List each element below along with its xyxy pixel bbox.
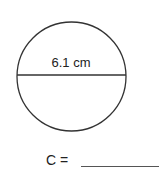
circle-diagram (0, 0, 165, 169)
answer-blank[interactable] (81, 166, 159, 167)
circumference-label: C = (46, 152, 68, 168)
diameter-label: 6.1 cm (40, 56, 102, 70)
circle-outline (17, 22, 126, 131)
